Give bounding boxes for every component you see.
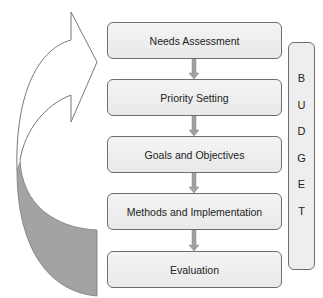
budget-letter: G <box>297 151 306 178</box>
budget-letter: T <box>298 204 305 231</box>
step-needs-assessment: Needs Assessment <box>107 22 282 59</box>
step-priority-setting: Priority Setting <box>107 79 282 116</box>
budget-letter: E <box>298 177 305 204</box>
step-label: Needs Assessment <box>150 35 240 47</box>
budget-letter: D <box>298 124 306 151</box>
step-label: Goals and Objectives <box>145 149 245 161</box>
step-goals-objectives: Goals and Objectives <box>107 136 282 173</box>
step-methods-implementation: Methods and Implementation <box>107 193 282 230</box>
budget-letter: B <box>298 71 305 98</box>
step-label: Methods and Implementation <box>127 206 262 218</box>
step-evaluation: Evaluation <box>107 251 282 288</box>
budget-bar: B U D G E T <box>288 42 315 270</box>
step-label: Evaluation <box>170 264 219 276</box>
budget-letter: U <box>298 98 306 125</box>
step-label: Priority Setting <box>160 92 228 104</box>
